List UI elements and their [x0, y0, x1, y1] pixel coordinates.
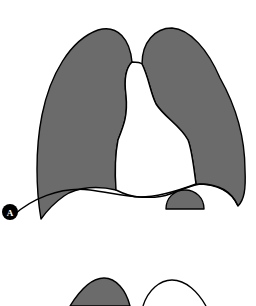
lung-diagram: A [0, 0, 256, 306]
panel-b-partial [70, 278, 206, 306]
panel-label-a: A [2, 204, 18, 220]
svg-text:A: A [7, 208, 14, 218]
left-lung-apex-outline [143, 280, 206, 306]
panel-a: A [2, 28, 245, 220]
right-lung-apex [70, 278, 130, 306]
